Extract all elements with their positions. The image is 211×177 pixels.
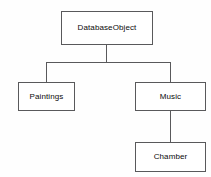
node-paintings-label: Paintings [30,93,64,101]
diagram-canvas: DatabaseObject Paintings Music Chamber [0,0,211,177]
edge-root-to-music [170,62,171,82]
edge-music-to-chamber [170,111,171,142]
node-music[interactable]: Music [135,82,206,111]
edge-root-stem [106,45,107,62]
node-databaseobject[interactable]: DatabaseObject [61,11,153,45]
node-chamber-label: Chamber [154,153,188,161]
node-music-label: Music [160,93,181,101]
node-paintings[interactable]: Paintings [18,82,75,111]
node-chamber[interactable]: Chamber [135,142,206,172]
node-databaseobject-label: DatabaseObject [78,24,137,32]
edge-root-to-paintings [46,62,47,82]
edge-horizontal-bus [46,62,171,63]
